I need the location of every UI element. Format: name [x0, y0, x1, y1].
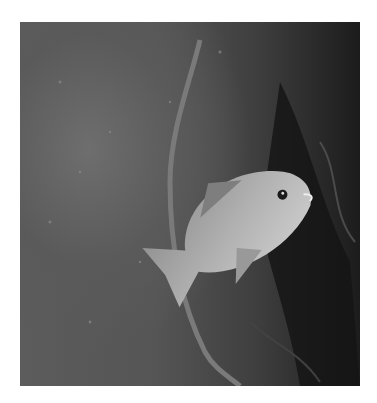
underwater-photo [20, 22, 360, 386]
photo-illustration [20, 22, 360, 386]
